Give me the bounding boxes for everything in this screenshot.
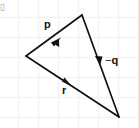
vector-diagram-figure: ▯ [0, 0, 139, 128]
vector-label-negative-q: −q [105, 55, 118, 66]
vector-label-p: p [44, 19, 51, 30]
vector-label-r: r [62, 85, 66, 96]
vector-p [26, 15, 82, 56]
q-symbol: q [111, 54, 118, 66]
vector-negative-q [82, 15, 119, 117]
vector-negative-q-arrowhead [95, 56, 103, 66]
